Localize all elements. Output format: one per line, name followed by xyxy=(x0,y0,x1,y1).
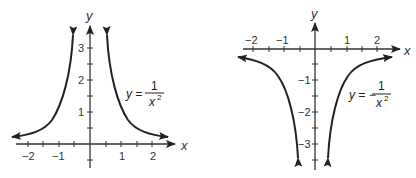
y-tick-label: 2 xyxy=(78,74,84,86)
x-tick-label: 2 xyxy=(374,34,380,46)
svg-text:y =: y = xyxy=(125,87,142,101)
equation-label: y = − 1 x 2 xyxy=(348,79,391,110)
y-tick-label: 1 xyxy=(78,106,84,118)
x-tick-label: −1 xyxy=(276,34,289,46)
curve-left-branch xyxy=(12,35,73,137)
y-tick-label: −1 xyxy=(298,74,311,86)
equation-label: y = 1 x 2 xyxy=(125,79,164,109)
svg-text:1: 1 xyxy=(378,79,385,93)
svg-text:x: x xyxy=(148,95,156,109)
right-graph: −2 −1 1 2 −1 −2 −3 x y y = − 1 x 2 xyxy=(238,6,411,170)
curve-right-branch xyxy=(328,57,392,158)
curve-left-branch xyxy=(238,57,298,158)
left-graph: −2 −1 1 2 1 2 3 x y y = 1 x 2 xyxy=(12,8,188,168)
x-axis-label: x xyxy=(180,138,188,153)
curve-right-branch xyxy=(107,35,168,137)
x-tick-label: 1 xyxy=(119,150,125,162)
x-tick-label: −2 xyxy=(245,34,258,46)
x-tick-label: −2 xyxy=(22,150,35,162)
y-tick-label: 3 xyxy=(78,42,84,54)
y-tick-label: −3 xyxy=(298,138,311,150)
x-axis-label: x xyxy=(403,43,411,58)
y-axis-label: y xyxy=(85,8,94,23)
x-tick-label: 2 xyxy=(150,150,156,162)
svg-text:2: 2 xyxy=(384,94,389,103)
graphs-canvas: −2 −1 1 2 1 2 3 x y y = 1 x 2 xyxy=(0,0,416,178)
svg-text:2: 2 xyxy=(157,93,162,102)
svg-text:1: 1 xyxy=(151,79,158,93)
y-axis-label: y xyxy=(310,6,319,21)
svg-text:x: x xyxy=(375,96,383,110)
x-tick-label: 1 xyxy=(344,34,350,46)
svg-text:y = −: y = − xyxy=(348,88,376,102)
y-tick-label: −2 xyxy=(298,106,311,118)
x-tick-label: −1 xyxy=(52,150,65,162)
